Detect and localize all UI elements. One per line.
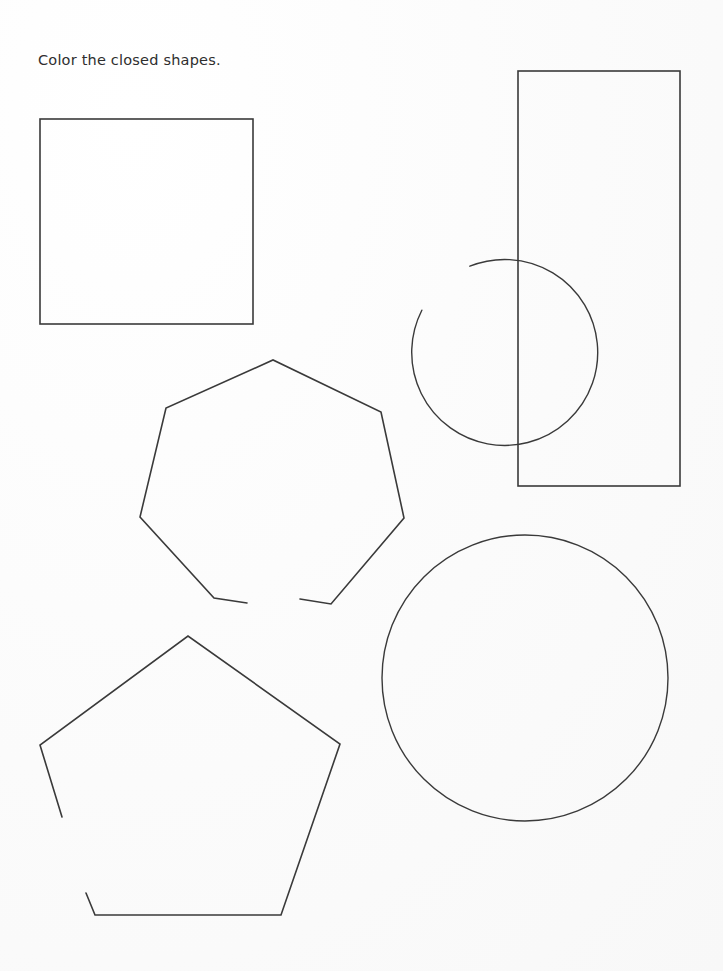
worksheet-page: Color the closed shapes.	[0, 0, 723, 971]
shape-open-circle[interactable]	[412, 259, 598, 445]
shape-open-heptagon[interactable]	[140, 360, 404, 604]
shape-large-circle[interactable]	[382, 535, 668, 821]
shape-open-pentagon[interactable]	[40, 636, 340, 915]
shape-square[interactable]	[40, 119, 253, 324]
shape-tall-rectangle[interactable]	[518, 71, 680, 486]
shape-canvas	[0, 0, 723, 971]
